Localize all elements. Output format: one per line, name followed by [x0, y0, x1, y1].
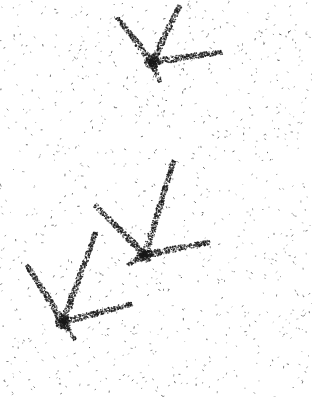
footprints-drawing	[0, 0, 312, 397]
stipple-artwork	[0, 0, 312, 397]
